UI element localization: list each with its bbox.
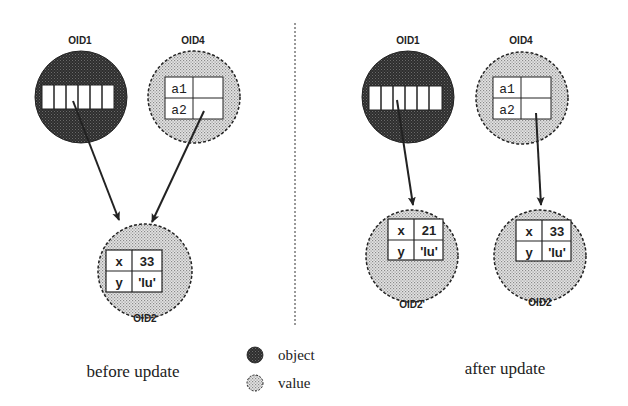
- object-slots: [42, 85, 114, 109]
- value-legend-icon: [247, 375, 263, 391]
- node-label: OID2': [399, 299, 425, 310]
- field-key: a1: [171, 82, 187, 97]
- legend-value-label: value: [278, 375, 311, 391]
- field-key: x: [397, 223, 405, 238]
- node-label: OID4: [509, 35, 533, 46]
- legend-object-label: object: [278, 347, 315, 363]
- after-oid1-object: OID1: [362, 35, 454, 143]
- field-value: 33: [140, 254, 154, 269]
- field-key: a2: [499, 103, 515, 118]
- after-update-caption: after update: [465, 359, 546, 378]
- field-key: y: [115, 275, 123, 290]
- before-oid1-object: OID1: [35, 35, 127, 143]
- node-label: OID1: [68, 35, 92, 46]
- field-key: a1: [499, 82, 515, 97]
- field-key: y: [525, 245, 533, 260]
- field-key: x: [115, 254, 123, 269]
- node-label: OID4: [181, 35, 205, 46]
- field-value: 33: [550, 224, 564, 239]
- node-label: OID2: [528, 297, 552, 308]
- field-key: y: [397, 244, 405, 259]
- field-value: 'lu': [548, 245, 566, 260]
- before-oid4-value: OID4 a1 a2: [148, 35, 240, 143]
- field-value: 'lu': [138, 275, 156, 290]
- node-label: OID1: [396, 35, 420, 46]
- object-slots: [369, 86, 442, 110]
- field-value: 'lu': [420, 244, 438, 259]
- before-oid2-value: x 33 y 'lu' OID2: [98, 224, 192, 324]
- after-oid4-value: OID4 a1 a2: [476, 35, 568, 144]
- field-value: 21: [422, 223, 436, 238]
- node-label: OID2: [133, 313, 157, 324]
- object-value-update-diagram: OID1 OID4 a1 a2: [0, 0, 628, 406]
- legend: object value: [247, 347, 315, 391]
- after-oid2-prime-value: x 21 y 'lu' OID2': [366, 210, 458, 310]
- field-key: x: [525, 224, 533, 239]
- before-update-caption: before update: [87, 362, 180, 381]
- field-key: a2: [171, 103, 187, 118]
- before-update-panel: OID1 OID4 a1 a2: [35, 35, 240, 381]
- object-legend-icon: [247, 347, 263, 363]
- after-oid2-value: x 33 y 'lu' OID2: [494, 210, 586, 308]
- after-update-panel: OID1 OID4 a1 a2: [362, 35, 586, 378]
